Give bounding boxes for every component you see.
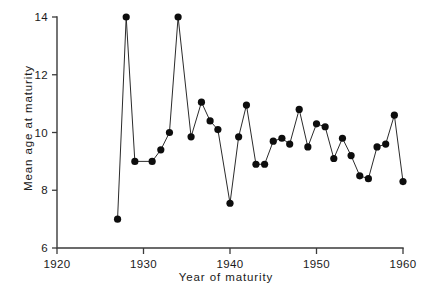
data-point xyxy=(373,143,380,150)
y-tick-label: 12 xyxy=(34,69,48,81)
data-series-line xyxy=(118,17,403,219)
x-tick-label: 1940 xyxy=(216,258,243,270)
line-chart-canvas: 6810121419201930194019501960 Year of mat… xyxy=(0,0,432,296)
axis-tick-labels: 6810121419201930194019501960 xyxy=(34,11,416,270)
data-point xyxy=(149,158,156,165)
data-point xyxy=(330,155,337,162)
data-point xyxy=(261,161,268,168)
data-point xyxy=(286,140,293,147)
data-point xyxy=(157,146,164,153)
data-point xyxy=(114,216,121,223)
data-point xyxy=(365,175,372,182)
data-point xyxy=(339,135,346,142)
axis-ticks xyxy=(52,17,403,254)
data-point xyxy=(270,138,277,145)
y-tick-label: 10 xyxy=(34,127,48,139)
data-point xyxy=(131,158,138,165)
data-point xyxy=(382,140,389,147)
data-point xyxy=(175,13,182,20)
data-point xyxy=(296,106,303,113)
y-tick-label: 14 xyxy=(34,11,48,23)
y-tick-label: 8 xyxy=(41,184,48,196)
data-point xyxy=(399,178,406,185)
x-axis-title: Year of maturity xyxy=(179,271,274,283)
x-tick-label: 1950 xyxy=(303,258,330,270)
data-point xyxy=(166,129,173,136)
data-point xyxy=(304,143,311,150)
x-tick-label: 1920 xyxy=(43,258,70,270)
x-tick-label: 1960 xyxy=(389,258,416,270)
data-point xyxy=(278,135,285,142)
data-point xyxy=(207,117,214,124)
data-point xyxy=(348,152,355,159)
data-point xyxy=(226,200,233,207)
data-point xyxy=(322,123,329,130)
data-point xyxy=(252,161,259,168)
x-tick-label: 1930 xyxy=(130,258,157,270)
data-point xyxy=(214,126,221,133)
chart-figure: 6810121419201930194019501960 Year of mat… xyxy=(0,0,432,296)
data-point xyxy=(391,112,398,119)
data-point-markers xyxy=(114,13,407,222)
data-point xyxy=(243,101,250,108)
data-point xyxy=(187,133,194,140)
y-axis-title: Mean age at maturity xyxy=(22,65,34,191)
data-point xyxy=(123,13,130,20)
y-tick-label: 6 xyxy=(41,242,48,254)
axes xyxy=(57,17,403,248)
data-point xyxy=(313,120,320,127)
axis-spine xyxy=(57,17,403,248)
data-point xyxy=(356,172,363,179)
data-point xyxy=(235,133,242,140)
data-point xyxy=(198,99,205,106)
